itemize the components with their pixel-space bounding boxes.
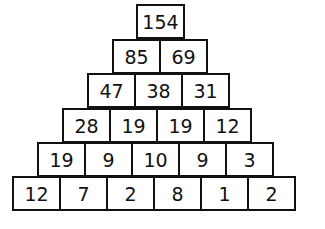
pyramid-cell: 19 xyxy=(109,108,158,143)
pyramid-cell: 3 xyxy=(225,142,274,177)
pyramid-cell: 9 xyxy=(178,142,227,177)
pyramid-row-2: 85 69 xyxy=(112,41,208,76)
pyramid-cell: 47 xyxy=(87,73,136,108)
pyramid-row-1: 154 xyxy=(136,6,185,41)
pyramid-row-4: 28 19 19 12 xyxy=(62,110,252,145)
pyramid-cell: 85 xyxy=(112,39,161,74)
pyramid-cell: 10 xyxy=(131,142,180,177)
pyramid-cell: 7 xyxy=(59,176,108,211)
pyramid-cell: 38 xyxy=(134,73,183,108)
pyramid-row-3: 47 38 31 xyxy=(87,75,230,110)
pyramid-cell: 69 xyxy=(159,39,208,74)
pyramid-cell: 12 xyxy=(12,176,61,211)
pyramid-cell: 31 xyxy=(181,73,230,108)
pyramid-cell: 28 xyxy=(62,108,111,143)
pyramid-cell: 9 xyxy=(84,142,133,177)
pyramid-cell: 2 xyxy=(247,176,296,211)
pyramid-cell: 12 xyxy=(203,108,252,143)
pyramid-cell: 1 xyxy=(200,176,249,211)
pyramid-cell: 154 xyxy=(136,4,185,39)
pyramid-cell: 19 xyxy=(156,108,205,143)
pyramid-cell: 8 xyxy=(153,176,202,211)
number-pyramid: 154 85 69 47 38 31 28 19 19 12 19 9 10 9… xyxy=(0,0,325,229)
pyramid-cell: 19 xyxy=(37,142,86,177)
pyramid-row-6: 12 7 2 8 1 2 xyxy=(12,178,296,213)
pyramid-row-5: 19 9 10 9 3 xyxy=(37,144,274,179)
pyramid-cell: 2 xyxy=(106,176,155,211)
